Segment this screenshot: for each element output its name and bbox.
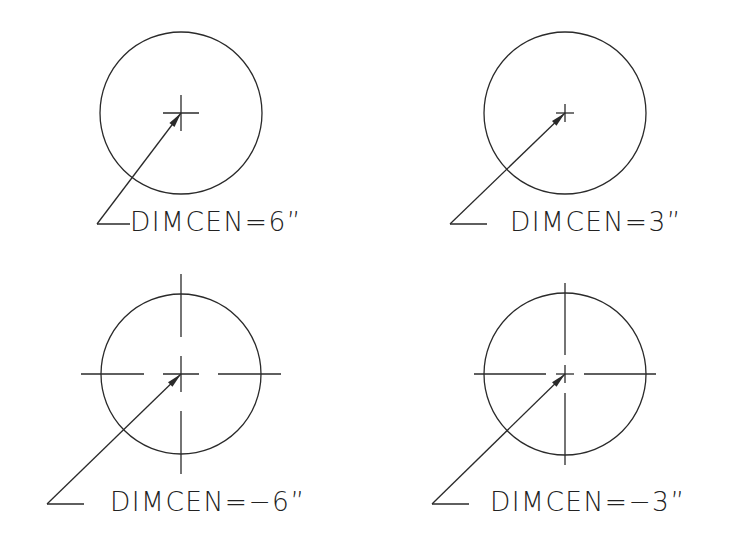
label-dimcen-neg3: DIMCEN=−3” — [490, 488, 686, 515]
leader-line — [432, 374, 565, 504]
label-dimcen-6: DIMCEN=6” — [130, 208, 302, 235]
leader-line — [47, 374, 181, 504]
dimcen-diagram — [0, 0, 743, 558]
label-dimcen-neg6: DIMCEN=−6” — [110, 488, 306, 515]
arrowhead-icon — [169, 113, 181, 127]
label-dimcen-3: DIMCEN=3” — [510, 208, 682, 235]
